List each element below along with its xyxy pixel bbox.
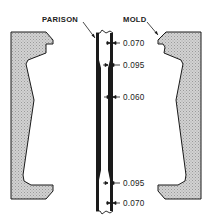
dim-label-2: 0.095: [123, 61, 145, 70]
left-mold-half: [11, 32, 53, 199]
parison: [96, 30, 113, 214]
dim-label-4: 0.095: [123, 179, 145, 188]
parison-mold-diagram: 0.070 0.095 0.060 0.095 0.070 PARISON MO…: [0, 0, 209, 215]
dim-label-5: 0.070: [123, 199, 145, 208]
dim-label-1: 0.070: [123, 39, 145, 48]
mold-label: MOLD: [123, 15, 147, 24]
dim-label-3: 0.060: [123, 93, 145, 102]
parison-label: PARISON: [42, 15, 78, 24]
right-mold-half: [158, 32, 201, 199]
